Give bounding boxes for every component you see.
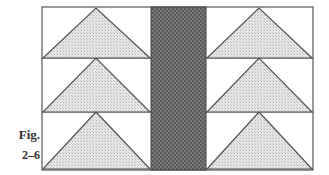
figure-number: 2–6 — [0, 148, 40, 163]
quilt-diagram — [0, 0, 329, 175]
center-stripe — [151, 7, 206, 170]
figure-label: Fig. — [0, 127, 40, 143]
